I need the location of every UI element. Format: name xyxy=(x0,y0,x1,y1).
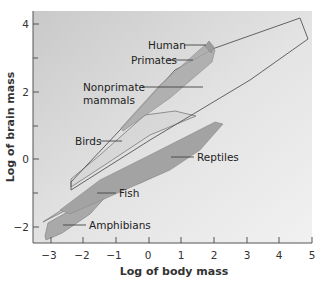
y-tick-4: 4 xyxy=(22,18,29,30)
y-axis-title: Log of brain mass xyxy=(4,71,17,182)
x-tick-neg1: −1 xyxy=(106,249,121,261)
y-tick-neg2: −2 xyxy=(14,221,29,233)
x-tick-neg2: −2 xyxy=(74,249,89,261)
label-amphibians: Amphibians xyxy=(89,219,151,231)
y-tick-0: 0 xyxy=(22,153,29,165)
label-primates: Primates xyxy=(131,54,177,66)
x-tick-4: 4 xyxy=(276,249,283,261)
label-reptiles: Reptiles xyxy=(197,151,239,163)
x-tick-1: 1 xyxy=(178,249,185,261)
label-birds: Birds xyxy=(75,135,101,147)
x-tick-2: 2 xyxy=(211,249,218,261)
x-axis-title: Log of body mass xyxy=(120,265,229,278)
x-tick-0: 0 xyxy=(145,249,152,261)
x-tick-5: 5 xyxy=(309,249,316,261)
label-nonprimate-line1: Nonprimate xyxy=(83,81,145,93)
x-tick-3: 3 xyxy=(244,249,251,261)
x-tick-neg3: −3 xyxy=(41,249,56,261)
y-tick-2: 2 xyxy=(22,86,29,98)
label-fish: Fish xyxy=(119,187,139,199)
label-nonprimate-line2: mammals xyxy=(83,94,135,106)
label-human: Human xyxy=(148,39,186,51)
brain-body-mass-diagram: Human Primates Nonprimate mammals Birds … xyxy=(0,0,323,282)
